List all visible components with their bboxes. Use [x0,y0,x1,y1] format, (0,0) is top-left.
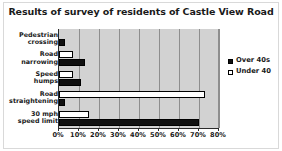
y-axis-label: Roadnarrowing [2,51,58,65]
bar-under-40 [59,51,73,58]
plot-inner [59,29,219,128]
bar-under-40 [59,91,205,98]
y-axis-label-line: narrowing [2,59,58,66]
y-axis-label-line: crossing [2,39,58,46]
bar-over-40s [59,119,199,126]
chart-title: Results of survey of residents of Castle… [0,6,282,17]
x-axis-tick-label: 80% [205,131,231,139]
gridline [179,29,180,128]
y-axis-label-line: straightening [2,98,58,105]
plot-area [58,29,219,128]
bar-over-40s [59,59,85,66]
y-axis-label: Roadstraightening [2,91,58,105]
bar-under-40 [59,71,73,78]
legend-label-over-40s: Over 40s [236,56,270,64]
bar-over-40s [59,39,65,46]
gridline [119,29,120,128]
legend-entry-under-40: Under 40 [228,68,280,79]
gridline [159,29,160,128]
y-axis-label-line: humps [2,78,58,85]
gridline [99,29,100,128]
y-axis-label: Speedhumps [2,71,58,85]
legend-swatch-icon-over-40s [228,59,233,64]
plot-right-edge [218,29,219,128]
y-axis-label: Pedestriancrossing [2,32,58,46]
bar-over-40s [59,99,65,106]
bar-over-40s [59,79,81,86]
y-axis-label: 30 mphspeed limit [2,111,58,125]
chart-legend: Over 40s Under 40 [228,57,280,79]
legend-swatch-icon-under-40 [228,70,233,75]
y-axis-label-line: speed limit [2,118,58,125]
gridline [139,29,140,128]
gridline [199,29,200,128]
gridline [219,29,220,128]
chart-screenshot: Results of survey of residents of Castle… [0,0,282,151]
legend-label-under-40: Under 40 [236,67,271,75]
bar-under-40 [59,111,89,118]
